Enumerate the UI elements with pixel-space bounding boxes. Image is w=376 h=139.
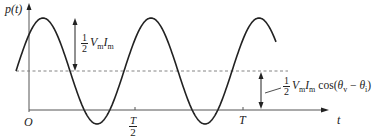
y-axis-arrow-icon xyxy=(27,3,32,10)
average-power-label: 1 2 VmImcos(θv − θi) xyxy=(283,76,371,97)
power-waveform-diagram xyxy=(0,0,376,139)
leader-line xyxy=(265,88,281,93)
x-axis-arrow-icon xyxy=(321,108,329,113)
amplitude-arrow-up-icon xyxy=(73,18,78,25)
amplitude-arrow-down-icon xyxy=(73,64,78,71)
origin-label: O xyxy=(24,116,33,128)
x-axis-label: t xyxy=(337,114,340,126)
average-arrow-up-icon xyxy=(259,72,264,79)
amplitude-label: 1 2 VmIm xyxy=(81,33,114,54)
y-axis-label: p(t) xyxy=(5,3,22,15)
tick-label-half-period: T 2 xyxy=(129,115,139,138)
tick-label-period: T xyxy=(239,114,246,126)
average-arrow-down-icon xyxy=(259,102,264,109)
